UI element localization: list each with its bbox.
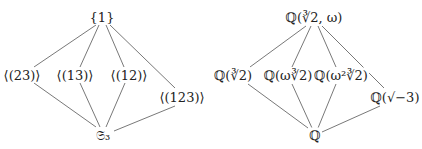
node-field-cbrt2: ℚ(∛2) (213, 68, 253, 83)
node-symmetric-group: 𝔖₃ (95, 128, 111, 143)
edge (292, 84, 312, 128)
edge (34, 25, 96, 67)
node-splitting-field: ℚ(∛2, ω) (285, 10, 344, 25)
edge (80, 25, 99, 67)
node-field-sqrt-minus3: ℚ(√−3) (370, 90, 421, 105)
edge (34, 83, 96, 127)
node-rationals: ℚ (308, 128, 321, 143)
edge (322, 106, 380, 132)
edge (80, 83, 100, 127)
edge (318, 84, 336, 128)
edge (292, 26, 311, 67)
node-trivial-subgroup: {1} (89, 10, 116, 25)
edge (248, 84, 308, 128)
node-field-omega2-cbrt2: ℚ(ω²∛2) (313, 68, 369, 83)
edge (250, 26, 306, 67)
edge (318, 26, 336, 67)
edge (106, 25, 124, 67)
node-subgroup-12: ⟨(12)⟩ (110, 68, 149, 83)
edge (114, 106, 175, 131)
node-subgroup-123: ⟨(123)⟩ (158, 90, 205, 105)
node-subgroup-13: ⟨(13)⟩ (56, 68, 95, 83)
node-subgroup-23: ⟨(23)⟩ (3, 68, 42, 83)
node-field-omega-cbrt2: ℚ(ω∛2) (263, 68, 314, 83)
edge (106, 83, 125, 127)
